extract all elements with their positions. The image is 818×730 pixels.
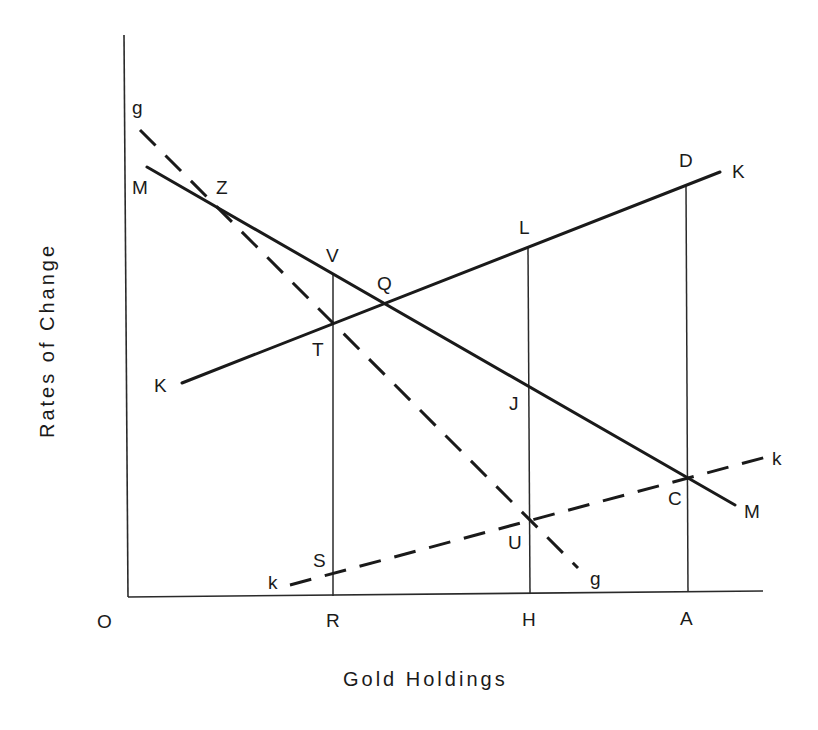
label-k-end: k: [772, 448, 782, 469]
point-T: T: [312, 339, 324, 360]
vertical-line-H: [528, 248, 530, 594]
point-U: U: [508, 532, 522, 553]
label-M-start: M: [132, 177, 148, 198]
curve-MM: [147, 167, 735, 505]
curve-gg: [140, 130, 578, 568]
y-axis: [124, 35, 128, 597]
x-tick-R: R: [326, 610, 340, 631]
x-axis: [128, 591, 763, 597]
label-K-end: K: [732, 161, 745, 182]
point-V: V: [326, 245, 339, 266]
x-axis-title: Gold Holdings: [343, 668, 508, 690]
point-L: L: [519, 217, 530, 238]
gold-holdings-diagram: g M K K M k k g Z V Q T L D J C U S O R …: [0, 0, 818, 730]
x-tick-H: H: [522, 609, 536, 630]
point-C: C: [668, 488, 682, 509]
label-k-start: k: [268, 572, 278, 593]
point-J: J: [509, 393, 519, 414]
label-g-end: g: [590, 568, 601, 589]
point-Q: Q: [377, 273, 392, 294]
curve-KK: [182, 172, 720, 383]
point-D: D: [679, 150, 693, 171]
x-tick-A: A: [680, 608, 693, 629]
point-Z: Z: [216, 177, 228, 198]
y-axis-title: Rates of Change: [36, 243, 58, 438]
label-K-start: K: [154, 375, 167, 396]
vertical-line-A: [686, 185, 688, 592]
point-S: S: [313, 550, 326, 571]
origin-label: O: [97, 611, 112, 632]
label-M-end: M: [744, 501, 760, 522]
label-g-start: g: [132, 97, 143, 118]
